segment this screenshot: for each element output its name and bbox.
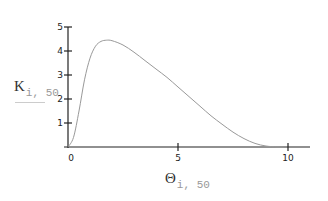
- x-label-main: Θ: [165, 170, 176, 186]
- y-label-underline: [15, 102, 45, 103]
- y-label-subscript: i, 50: [26, 87, 59, 99]
- x-tick-label: 10: [282, 153, 294, 163]
- y-tick-label: 4: [57, 46, 63, 56]
- y-axis-label: Ki, 50: [14, 78, 59, 95]
- x-label-subscript: i, 50: [177, 179, 210, 191]
- x-axis-label: Θi, 50: [165, 170, 210, 187]
- y-tick-label: 5: [57, 22, 63, 32]
- data-line: [68, 40, 284, 147]
- x-tick-label: 0: [68, 153, 74, 163]
- chart-plot: 051012345: [0, 0, 328, 201]
- y-label-main: K: [14, 78, 25, 94]
- y-tick-label: 1: [57, 118, 63, 128]
- x-tick-label: 5: [175, 153, 181, 163]
